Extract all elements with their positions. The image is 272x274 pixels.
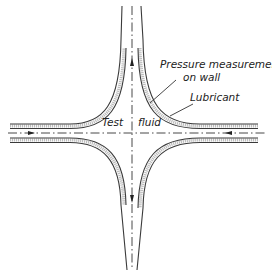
test-label: Test	[102, 116, 124, 128]
lubricant-leader-line	[170, 104, 193, 116]
fluid-label: fluid	[138, 116, 161, 128]
arrow-up-icon	[130, 58, 134, 66]
pressure-leader-line	[150, 80, 176, 103]
upper-left-wall	[10, 6, 126, 129]
lower-left-wall	[10, 138, 127, 270]
cross-slot-flow-diagram: Pressure measurement on wall Lubricant T…	[0, 0, 272, 274]
pressure-label-line1: Pressure measurement	[160, 58, 272, 70]
arrow-right-icon	[28, 131, 35, 135]
arrow-down-icon	[130, 195, 134, 203]
lubricant-label: Lubricant	[190, 91, 240, 103]
pressure-label-line2: on wall	[183, 71, 220, 83]
arrow-left-icon	[225, 131, 232, 135]
lower-right-wall	[137, 138, 258, 270]
